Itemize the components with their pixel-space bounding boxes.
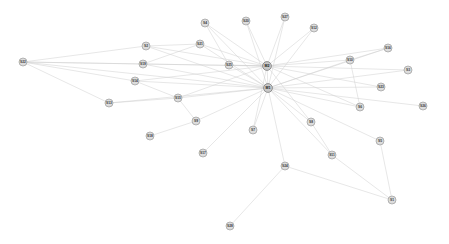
graph-node-s8[interactable]: S8 [307, 118, 315, 126]
node-circle[interactable] [131, 77, 139, 85]
graph-edge [109, 98, 178, 103]
graph-edge [380, 141, 392, 200]
graph-edge [146, 44, 200, 46]
node-circle[interactable] [346, 56, 354, 64]
graph-node-s13[interactable]: S13 [105, 99, 113, 107]
graph-node-s11[interactable]: S11 [328, 151, 336, 159]
node-circle[interactable] [142, 42, 150, 50]
edge-layer [23, 17, 423, 226]
graph-node-s14[interactable]: S14 [131, 77, 139, 85]
node-circle[interactable] [192, 117, 200, 125]
graph-node-s15[interactable]: S15 [174, 94, 182, 102]
node-circle[interactable] [19, 58, 27, 66]
graph-node-s21[interactable]: S21 [196, 40, 204, 48]
graph-node-s5[interactable]: S5 [376, 137, 384, 145]
graph-node-s23[interactable]: S23 [377, 83, 385, 91]
graph-edge [23, 46, 146, 62]
graph-node-s24[interactable]: S24 [281, 162, 289, 170]
graph-edge [350, 48, 388, 60]
graph-edge [253, 88, 268, 130]
node-circle[interactable] [384, 44, 392, 52]
graph-edge [135, 66, 267, 81]
graph-node-s3[interactable]: S3 [404, 66, 412, 74]
graph-edge [268, 88, 380, 141]
node-circle[interactable] [264, 84, 273, 93]
graph-node-s17[interactable]: S17 [199, 149, 207, 157]
node-circle[interactable] [377, 83, 385, 91]
node-circle[interactable] [226, 222, 234, 230]
graph-edge [268, 48, 388, 88]
graph-edge [311, 122, 332, 155]
graph-node-s18[interactable]: S18 [146, 132, 154, 140]
graph-edge [350, 60, 360, 107]
graph-edge [332, 155, 392, 200]
graph-edge [146, 46, 267, 66]
node-circle[interactable] [388, 196, 396, 204]
graph-node-s26[interactable]: S26 [419, 102, 427, 110]
node-circle[interactable] [199, 149, 207, 157]
graph-edge [135, 81, 268, 88]
graph-node-s10[interactable]: S10 [346, 56, 354, 64]
graph-edge [285, 166, 392, 200]
graph-edge [23, 62, 135, 81]
graph-edge [268, 88, 332, 155]
node-circle[interactable] [105, 99, 113, 107]
node-circle[interactable] [356, 103, 364, 111]
graph-node-s19[interactable]: S19 [139, 60, 147, 68]
node-circle[interactable] [174, 94, 182, 102]
graph-edge [268, 17, 285, 88]
node-circle[interactable] [376, 137, 384, 145]
graph-edge [267, 60, 350, 66]
node-circle[interactable] [404, 66, 412, 74]
graph-edge [268, 87, 381, 88]
graph-edge [246, 21, 268, 88]
graph-node-s2[interactable]: S2 [142, 42, 150, 50]
node-circle[interactable] [196, 40, 204, 48]
graph-node-s1[interactable]: S1 [388, 196, 396, 204]
node-circle[interactable] [281, 13, 289, 21]
node-circle[interactable] [242, 17, 250, 25]
graph-node-s7[interactable]: S7 [249, 126, 257, 134]
graph-node-s20[interactable]: S20 [242, 17, 250, 25]
node-circle[interactable] [328, 151, 336, 159]
graph-edge [268, 28, 314, 88]
graph-edge [135, 81, 178, 98]
graph-edge [109, 88, 268, 103]
node-circle[interactable] [310, 24, 318, 32]
node-circle[interactable] [146, 132, 154, 140]
network-graph-canvas: M1M2S1S2S3S4S5S6S7S8S9S10S11S12S13S14S15… [0, 0, 449, 244]
graph-edge [23, 62, 109, 103]
graph-edge [150, 121, 196, 136]
node-layer: M1M2S1S2S3S4S5S6S7S8S9S10S11S12S13S14S15… [19, 13, 427, 230]
graph-node-s16[interactable]: S16 [384, 44, 392, 52]
graph-edge [246, 21, 267, 66]
node-circle[interactable] [201, 19, 209, 27]
node-circle[interactable] [307, 118, 315, 126]
graph-node-s27[interactable]: S27 [281, 13, 289, 21]
graph-edge [267, 48, 388, 66]
network-graph-svg: M1M2S1S2S3S4S5S6S7S8S9S10S11S12S13S14S15… [0, 0, 449, 244]
graph-edge [267, 66, 408, 70]
node-circle[interactable] [263, 62, 272, 71]
graph-edge [196, 88, 268, 121]
node-circle[interactable] [225, 61, 233, 69]
graph-node-m2[interactable]: M2 [263, 62, 272, 71]
graph-edge [203, 88, 268, 153]
graph-node-s9[interactable]: S9 [192, 117, 200, 125]
graph-edge [253, 66, 267, 130]
graph-edge [178, 98, 196, 121]
graph-node-m1[interactable]: M1 [264, 84, 273, 93]
graph-node-s12[interactable]: S12 [310, 24, 318, 32]
graph-node-s6[interactable]: S6 [356, 103, 364, 111]
graph-node-s28[interactable]: S28 [226, 222, 234, 230]
node-circle[interactable] [139, 60, 147, 68]
node-circle[interactable] [419, 102, 427, 110]
graph-node-s22[interactable]: S22 [19, 58, 27, 66]
node-circle[interactable] [281, 162, 289, 170]
graph-edge [268, 88, 360, 107]
graph-node-s4[interactable]: S4 [201, 19, 209, 27]
graph-node-s25[interactable]: S25 [225, 61, 233, 69]
graph-edge [205, 23, 268, 88]
node-circle[interactable] [249, 126, 257, 134]
graph-edge [230, 166, 285, 226]
